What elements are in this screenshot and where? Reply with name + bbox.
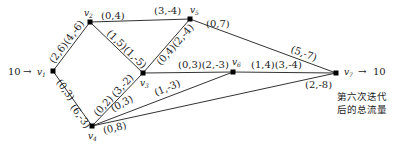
edge-label-v1-v2: (2,6)(4,-6) xyxy=(47,18,86,65)
node-label-v2: v2 xyxy=(84,8,93,19)
edge-label-v4-v3-b: (3,-2) xyxy=(109,72,135,100)
node-label-v1: v1 xyxy=(37,67,46,78)
caption-line-2: 后的总流量 xyxy=(337,104,387,115)
edge-label-v4-v1-b: (6,-3) xyxy=(68,102,93,131)
node-label-v4: v4 xyxy=(88,131,97,142)
edge-label-v2-v3-top: (0,4) xyxy=(101,10,125,21)
node-label-v5: v5 xyxy=(190,5,199,16)
node-label-v7: v7 xyxy=(344,67,353,78)
source-arrow-icon: → xyxy=(23,66,32,77)
edge-label-v6-v7: (1,4)(3,-4) xyxy=(251,59,302,70)
edge-label-v4-v1: (0,3) xyxy=(54,77,77,103)
edge-label-v2-v5: (3,-4) xyxy=(154,5,181,16)
node-v1 xyxy=(51,69,56,74)
edge-label-v2-v3: (1,5)(1,-5) xyxy=(105,28,149,71)
edge-label-v5-v7-a: (0,7) xyxy=(206,18,230,29)
node-label-v6: v6 xyxy=(232,57,241,68)
node-v3 xyxy=(141,71,146,76)
node-v2 xyxy=(88,20,93,25)
edge-v6-v7 xyxy=(233,72,336,73)
node-v5 xyxy=(188,17,193,22)
node-label-v3: v3 xyxy=(140,78,149,89)
edge-v2-v3 xyxy=(90,22,143,73)
edge-label-v7-in: (2,-8) xyxy=(305,79,332,90)
caption-line-1: 第六次迭代 xyxy=(337,91,387,102)
edge-label-v3-v6: (0,3)(2,-3) xyxy=(178,59,229,70)
edge-label-v4-v6-b: (1,-3) xyxy=(153,77,182,97)
sink-value: 10 xyxy=(373,66,386,77)
node-v7 xyxy=(334,71,339,76)
edge-label-v4-v7: (0,8) xyxy=(102,120,128,136)
source-value: 10 xyxy=(8,66,21,77)
network-flow-diagram: 10 → v1 v2 v3 v4 v5 v6 v7 → 10 (2,6)(4,-… xyxy=(0,0,396,147)
edge-v3-v6 xyxy=(143,72,233,73)
node-v6 xyxy=(231,70,236,75)
sink-arrow-icon: → xyxy=(358,66,367,77)
